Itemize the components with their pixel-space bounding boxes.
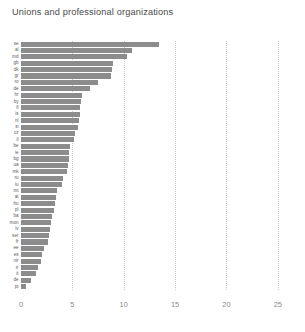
bar-row: tr [21,265,283,270]
bar [21,252,42,257]
bar [21,169,67,174]
bar-row: lv [21,227,283,232]
bar-row: ba [21,214,283,219]
bar-row: is [21,112,283,117]
bar-row: ua [21,163,283,168]
bar [21,112,80,117]
bar [21,42,159,47]
y-axis-label: gr [14,74,18,79]
y-axis-label: ser [12,233,18,238]
bar-row: ro [21,80,283,85]
y-axis-label: al [15,48,19,53]
bar-row: de [21,86,283,91]
bar-row: mt [21,188,283,193]
bar-row: ser [21,233,283,238]
y-axis-label: fr [16,240,19,245]
y-axis-label: ua [13,163,18,168]
bar [21,105,80,110]
y-axis-label: de [13,86,18,91]
bar-row: ie [21,150,283,155]
y-axis-label: si [15,125,18,130]
bar [21,208,54,213]
y-axis-label: hr [14,93,18,98]
bar-row: mon [21,220,283,225]
bar [21,201,55,206]
bar [21,182,62,187]
plot-area: sealmdgbdkgrrodehrbyfiisnlsiczilbeiebgua… [21,41,283,290]
x-axis-tick-label: 5 [70,300,74,309]
y-axis-label: lu [15,182,19,187]
bar [21,220,51,225]
bar-row: hr [21,93,283,98]
y-axis-label: it [16,272,18,277]
bar [21,61,113,66]
bar-row: lu [21,182,283,187]
y-axis-label: gb [13,61,18,66]
bar-row: gr [21,73,283,78]
y-axis-label: ee [13,246,18,251]
bar [21,163,68,168]
y-axis-label: pt [15,284,19,289]
y-axis-label: nir [13,259,18,264]
bar [21,259,41,264]
bar-row: fi [21,105,283,110]
bar [21,48,132,53]
y-axis-label: md [12,55,18,60]
x-axis-tick-label: 25 [274,300,282,309]
x-axis-tick-label: 15 [171,300,179,309]
bar [21,227,50,232]
bar [21,144,70,149]
y-axis-label: pl [15,208,19,213]
bar [21,156,69,161]
y-axis-label: fi [16,106,18,111]
bar [21,80,98,85]
bar [21,131,75,136]
bar-row: md [21,54,283,59]
y-axis-label: es [14,252,19,257]
y-axis-label: se [14,42,19,47]
bar-row: al [21,48,283,53]
bar [21,214,52,219]
y-axis-label: tr [16,265,19,270]
bar-row: dk [21,67,283,72]
bar-chart: Unions and professional organizations se… [0,0,305,332]
bar-row: gb [21,61,283,66]
bar-row: si [21,125,283,130]
bar-row: cz [21,131,283,136]
bar [21,118,79,123]
bar [21,278,31,283]
y-axis-label: mt [13,189,18,194]
bar-row: mk [21,169,283,174]
bar-row: by [21,99,283,104]
bar [21,99,81,104]
bar [21,284,26,289]
y-axis-label: ba [13,214,18,219]
y-axis-label: mon [10,221,19,226]
y-axis-label: is [15,112,18,117]
bar-row: nir [21,259,283,264]
bar [21,271,36,276]
y-axis-label: by [14,99,19,104]
y-axis-label: ro [14,80,18,85]
bar-row: nl [21,118,283,123]
bar [21,233,49,238]
bar-row: pl [21,208,283,213]
chart-title: Unions and professional organizations [12,7,173,17]
bar [21,67,112,72]
y-axis-label: hu [13,201,18,206]
y-axis-label: il [16,138,18,143]
y-axis-label: cz [14,131,19,136]
bar [21,93,82,98]
x-axis-tick-label: 0 [19,300,23,309]
bar-row: bg [21,156,283,161]
bar-row: hu [21,201,283,206]
bar-row: se [21,42,283,47]
bar [21,150,69,155]
bar [21,239,48,244]
x-axis-tick-label: 10 [120,300,128,309]
bar [21,125,78,130]
x-axis-tick-label: 20 [222,300,230,309]
y-axis-label: de [13,278,18,283]
bar-row: fr [21,239,283,244]
y-axis-label: dk [14,67,19,72]
